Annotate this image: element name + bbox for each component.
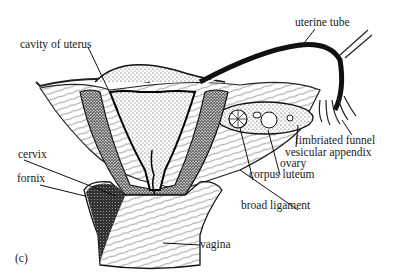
label-corpus-luteum: corpus luteum bbox=[249, 168, 314, 180]
label-fornix: fornix bbox=[17, 172, 45, 184]
anatomy-diagram: cavity of uterus uterine tube cervix for… bbox=[0, 0, 393, 273]
label-vagina: vagina bbox=[200, 238, 231, 250]
label-cervix: cervix bbox=[18, 148, 47, 160]
label-uterine-tube: uterine tube bbox=[295, 16, 350, 28]
label-broad-ligament: broad ligament bbox=[241, 199, 310, 211]
label-fimbriated-funnel: fimbriated funnel bbox=[295, 134, 375, 146]
label-cavity-of-uterus: cavity of uterus bbox=[20, 38, 92, 50]
panel-label: (c) bbox=[15, 252, 28, 264]
